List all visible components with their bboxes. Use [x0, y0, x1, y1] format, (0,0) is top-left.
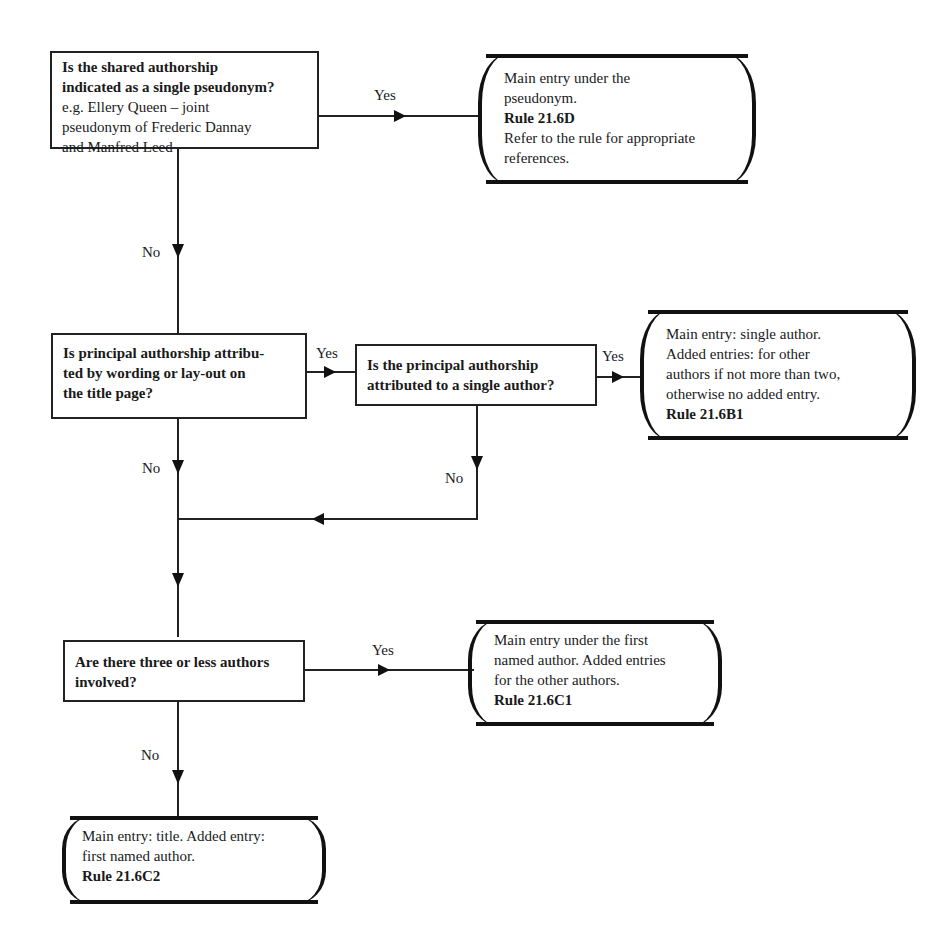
example-line: pseudonym of Frederic Dannay — [62, 117, 307, 137]
outcome-line: Added entries: for other — [666, 344, 890, 364]
outcome-line: Main entry under the — [504, 68, 730, 88]
edge-label-q1-no: No — [142, 243, 160, 261]
question-line: indicated as a single pseudonym? — [62, 77, 307, 97]
outcome-line: otherwise no added entry. — [666, 384, 890, 404]
question-line: attributed to a single author? — [367, 375, 585, 395]
outcome-terminal-21-6D: Main entry under the pseudonym. Rule 21.… — [486, 54, 748, 184]
outcome-terminal-21-6C1: Main entry under the first named author.… — [476, 620, 714, 726]
arrow-q1-no — [172, 244, 184, 258]
arrow-q3-no — [471, 456, 483, 470]
question-line: ted by wording or lay-out on — [63, 363, 295, 383]
outcome-line: pseudonym. — [504, 88, 730, 108]
arrow-q4-yes — [378, 664, 390, 676]
rule-reference: Rule 21.6C2 — [82, 866, 300, 886]
outcome-line: for the other authors. — [494, 670, 696, 690]
arrow-q1-yes — [394, 110, 406, 122]
edge-label-q4-no: No — [141, 746, 159, 764]
decision-box-single-author: Is the principal authorship attributed t… — [355, 344, 597, 406]
edge-label-q1-yes: Yes — [374, 86, 396, 104]
outcome-line: Refer to the rule for appropriate — [504, 128, 730, 148]
decision-box-principal-authorship: Is principal authorship attribu- ted by … — [51, 333, 307, 419]
outcome-line: named author. Added entries — [494, 650, 696, 670]
outcome-terminal-21-6C2: Main entry: title. Added entry: first na… — [70, 816, 318, 904]
example-line: e.g. Ellery Queen – joint — [62, 97, 307, 117]
question-line: Are there three or less authors — [75, 652, 293, 672]
arrow-merge-down — [172, 573, 184, 587]
question-line: Is the shared authorship — [62, 57, 307, 77]
outcome-line: first named author. — [82, 846, 300, 866]
outcome-line: Main entry under the first — [494, 630, 696, 650]
edge-label-q2-no: No — [142, 459, 160, 477]
rule-reference: Rule 21.6B1 — [666, 404, 890, 424]
outcome-line: authors if not more than two, — [666, 364, 890, 384]
arrow-q2-no — [172, 460, 184, 474]
example-line: and Manfred Leed — [62, 137, 307, 157]
decision-box-pseudonym: Is the shared authorship indicated as a … — [50, 51, 319, 149]
question-line: Is principal authorship attribu- — [63, 343, 295, 363]
arrow-q4-no — [172, 770, 184, 784]
edge-label-q4-yes: Yes — [372, 641, 394, 659]
edge-label-q3-no: No — [445, 469, 463, 487]
edge-label-q3-yes: Yes — [602, 347, 624, 365]
decision-box-three-or-less-authors: Are there three or less authors involved… — [63, 640, 305, 702]
question-line: involved? — [75, 672, 293, 692]
arrow-q3-yes — [612, 371, 624, 383]
edge-label-q2-yes: Yes — [316, 344, 338, 362]
question-line: Is the principal authorship — [367, 355, 585, 375]
rule-reference: Rule 21.6D — [504, 108, 730, 128]
question-line: the title page? — [63, 383, 295, 403]
arrow-q2-yes — [324, 366, 336, 378]
outcome-line: references. — [504, 148, 730, 168]
outcome-line: Main entry: single author. — [666, 324, 890, 344]
rule-reference: Rule 21.6C1 — [494, 690, 696, 710]
outcome-line: Main entry: title. Added entry: — [82, 826, 300, 846]
outcome-terminal-21-6B1: Main entry: single author. Added entries… — [648, 310, 908, 440]
arrow-merge-left — [312, 513, 324, 525]
